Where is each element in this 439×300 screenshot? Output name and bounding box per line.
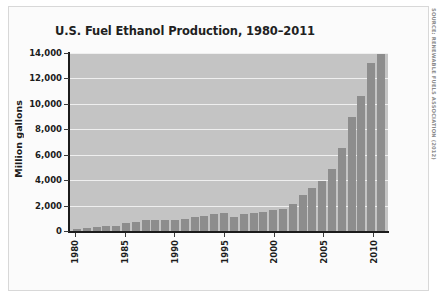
x-axis-tick-label: 2010: [369, 240, 379, 264]
bar: [171, 220, 179, 231]
bar: [367, 63, 375, 231]
bar: [348, 117, 356, 231]
y-axis-tick-mark: [64, 155, 69, 156]
y-axis-tick-mark: [64, 206, 69, 207]
bar: [328, 169, 336, 231]
bar: [279, 209, 287, 232]
bar: [377, 54, 385, 231]
y-axis-title: Million gallons: [13, 100, 24, 178]
bar: [191, 217, 199, 231]
x-axis-tick-label: 1985: [120, 240, 130, 264]
plot-area: [70, 53, 388, 231]
y-axis-tick-label: 12,000: [16, 73, 62, 83]
x-axis-tick-mark: [125, 233, 126, 237]
y-axis-tick-mark: [64, 104, 69, 105]
bar: [151, 220, 159, 231]
bar: [308, 188, 316, 231]
y-axis-tick-mark: [64, 180, 69, 181]
bar: [230, 217, 238, 231]
bar-series: [70, 53, 388, 231]
bar: [210, 214, 218, 231]
bar: [200, 216, 208, 231]
bar: [161, 220, 169, 231]
x-axis-tick-label: 2000: [269, 240, 279, 264]
x-axis-tick-mark: [373, 233, 374, 237]
bar: [299, 195, 307, 231]
x-axis-tick-label: 1995: [220, 240, 230, 264]
bar: [357, 96, 365, 231]
x-axis-tick-mark: [75, 233, 76, 237]
x-axis-tick-label: 1990: [170, 240, 180, 264]
y-axis-tick-label: 14,000: [16, 48, 62, 58]
bar: [220, 213, 228, 231]
x-axis-tick-label: 2005: [319, 240, 329, 264]
chart-figure: U.S. Fuel Ethanol Production, 1980–2011 …: [0, 0, 439, 300]
bar: [240, 214, 248, 231]
bar: [269, 210, 277, 231]
bar: [259, 212, 267, 231]
x-axis-tick-mark: [323, 233, 324, 237]
y-axis-tick-label: 2,000: [16, 201, 62, 211]
y-axis-tick-mark: [64, 129, 69, 130]
y-axis-tick-mark: [64, 53, 69, 54]
y-axis-tick-label: 0: [16, 226, 62, 236]
bar: [338, 148, 346, 231]
bar: [289, 204, 297, 231]
x-axis-tick-mark: [274, 233, 275, 237]
x-axis-tick-mark: [224, 233, 225, 237]
source-note: SOURCE: RENEWABLE FUELS ASSOCIATION (201…: [431, 8, 437, 160]
y-axis-tick-mark: [64, 78, 69, 79]
x-axis-line: [68, 231, 389, 233]
y-axis-tick-mark: [64, 231, 69, 232]
x-axis-tick-label: 1980: [70, 240, 80, 264]
bar: [181, 219, 189, 231]
bar: [142, 220, 150, 231]
bar: [122, 223, 130, 231]
bar: [250, 213, 258, 231]
bar: [318, 181, 326, 231]
bar: [132, 222, 140, 231]
page-title: U.S. Fuel Ethanol Production, 1980–2011: [30, 24, 340, 38]
x-axis-tick-mark: [174, 233, 175, 237]
